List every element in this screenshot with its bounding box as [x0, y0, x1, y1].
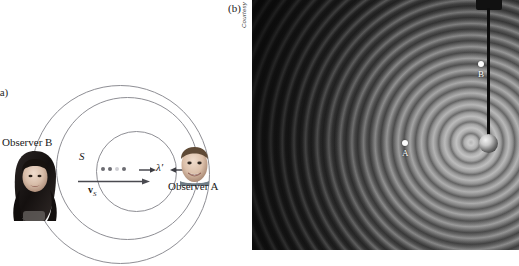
- point-a-label: A: [402, 148, 409, 158]
- source-dot: [101, 167, 105, 171]
- point-b-label: B: [478, 69, 484, 79]
- panel-b-ripple-tank: (b) Courtesy of the Educational Developm…: [252, 0, 519, 266]
- source-dot: [122, 167, 126, 171]
- point-a-marker: [402, 140, 408, 146]
- sphere-bob-icon: [479, 134, 498, 153]
- velocity-label-subscript: S: [93, 190, 97, 198]
- source-dot: [108, 167, 112, 171]
- velocity-label: vS: [88, 184, 97, 198]
- panel-b-label: (b): [228, 2, 241, 14]
- point-b-marker: [478, 61, 484, 67]
- observer-a-label: Observer A: [168, 180, 218, 192]
- panel-a-doppler-diagram: (a) S vS λ′: [0, 0, 252, 266]
- source-label: S: [79, 150, 85, 162]
- wavelength-label: λ′: [156, 161, 163, 173]
- source-position-dots: [101, 167, 126, 171]
- panel-a-label: (a): [0, 86, 8, 98]
- source-dot: [115, 167, 119, 171]
- photo-credit: Courtesy of the Educational Development …: [240, 0, 247, 28]
- observer-b-label: Observer B: [2, 136, 52, 148]
- observer-b-face-photo: [12, 150, 59, 222]
- vertical-rod-icon: [487, 8, 490, 140]
- ripple-tank-photo: A B: [252, 0, 519, 250]
- photo-vignette-overlay: [252, 0, 519, 250]
